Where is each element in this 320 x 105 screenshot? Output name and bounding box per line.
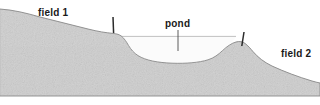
pond-cross-section-figure: field 1 pond field 2 — [0, 0, 320, 105]
stake-marker-left-icon — [113, 17, 114, 33]
label-pond: pond — [165, 18, 190, 29]
label-field-2: field 2 — [281, 48, 312, 59]
label-field-1: field 1 — [38, 7, 69, 18]
diagram-canvas: field 1 pond field 2 — [0, 0, 320, 105]
